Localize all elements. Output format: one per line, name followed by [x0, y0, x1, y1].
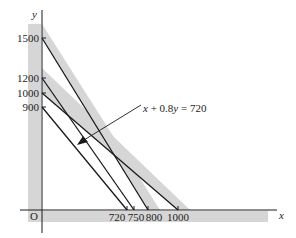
- equation-label: x + 0.8y = 720: [142, 102, 207, 114]
- lp-diagram: y x O 1500 1200 1000 900 720 750 800 100…: [0, 0, 296, 238]
- x-axis-label: x: [278, 209, 284, 221]
- y-tick-label-900: 900: [23, 101, 40, 113]
- band-line-1000-1000: [42, 68, 190, 210]
- line-1500-800: [42, 38, 148, 210]
- y-tick-label-1500: 1500: [17, 32, 40, 44]
- origin-label: O: [30, 210, 38, 222]
- y-tick-label-1200: 1200: [17, 72, 40, 84]
- x-tick-label-750: 750: [128, 211, 145, 223]
- y-tick-label-1000: 1000: [17, 87, 40, 99]
- shaded-bands: [28, 24, 268, 222]
- x-tick-label-720: 720: [109, 211, 126, 223]
- arrowhead-icon: [77, 136, 88, 145]
- x-tick-label-1000: 1000: [167, 211, 190, 223]
- x-tick-label-800: 800: [146, 211, 163, 223]
- band-line-1500-800: [42, 24, 160, 210]
- y-axis-shade: [28, 24, 41, 211]
- y-axis-label: y: [31, 8, 37, 20]
